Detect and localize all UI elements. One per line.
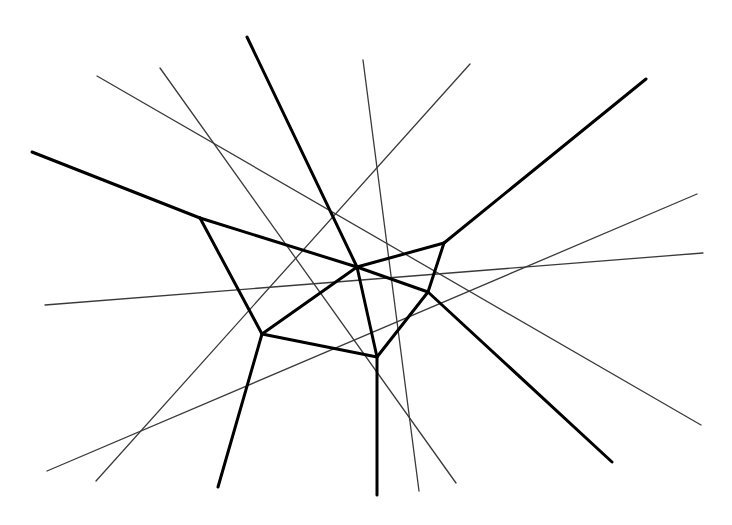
line-arrangement-diagram [0,0,732,525]
